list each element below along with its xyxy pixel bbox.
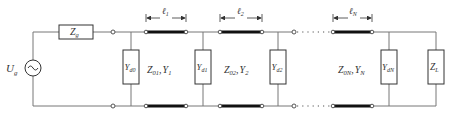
svg-text:Z0N,YN: Z0N,YN: [338, 64, 365, 76]
transmission-line-2: ℓ2 Z02,Y2: [218, 6, 264, 108]
svg-text:ℓ2: ℓ2: [237, 6, 244, 17]
transmission-line-1: ℓ1 Z01,Y1: [144, 6, 188, 108]
continuation-dots: [297, 32, 333, 106]
shunt-admittance-dN: YdN: [381, 50, 397, 84]
load-impedance: ZL: [428, 50, 444, 84]
svg-text:Z02,Y2: Z02,Y2: [224, 64, 249, 76]
shunt-admittance-d1: Yd1: [195, 50, 211, 84]
svg-text:ℓ1: ℓ1: [162, 6, 169, 17]
voltage-source: [25, 60, 41, 76]
shunt-admittance-d0: Yd0: [123, 50, 139, 84]
source-label: Ug: [6, 62, 18, 77]
svg-text:Z01,Y1: Z01,Y1: [147, 64, 171, 76]
transmission-line-N: ℓN Z0N,YN: [331, 6, 374, 108]
transmission-line-circuit-diagram: Ug Zg Yd0 Yd1 Yd2 YdN ZL ℓ1: [0, 0, 462, 120]
shunt-admittance-d2: Yd2: [270, 50, 286, 84]
svg-text:ℓN: ℓN: [349, 6, 358, 17]
